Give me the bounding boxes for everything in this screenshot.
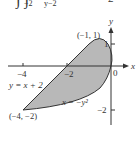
- region-diagram: x y −4 −2 0 1 −2 y = x + 2 x = −y² (−1, …: [0, 0, 140, 152]
- x-axis-label: x: [130, 61, 135, 71]
- x-tick-label-neg4: −4: [17, 69, 27, 79]
- point-label-neg1-1: (−1, 1): [77, 30, 100, 40]
- y-axis-arrow-icon: [109, 27, 114, 33]
- x-axis-arrow-icon: [123, 64, 129, 69]
- x-tick-label-neg2: −2: [64, 69, 74, 79]
- y-tick-label-neg2: −2: [97, 105, 107, 115]
- origin-label: 0: [113, 68, 118, 78]
- line-equation-label: y = x + 2: [8, 80, 43, 90]
- y-tick-label-1: 1: [104, 39, 109, 49]
- y-axis-label: y: [108, 16, 113, 26]
- point-label-neg4-neg2: (−4, −2): [9, 111, 37, 121]
- parabola-equation-label: x = −y²: [61, 97, 88, 107]
